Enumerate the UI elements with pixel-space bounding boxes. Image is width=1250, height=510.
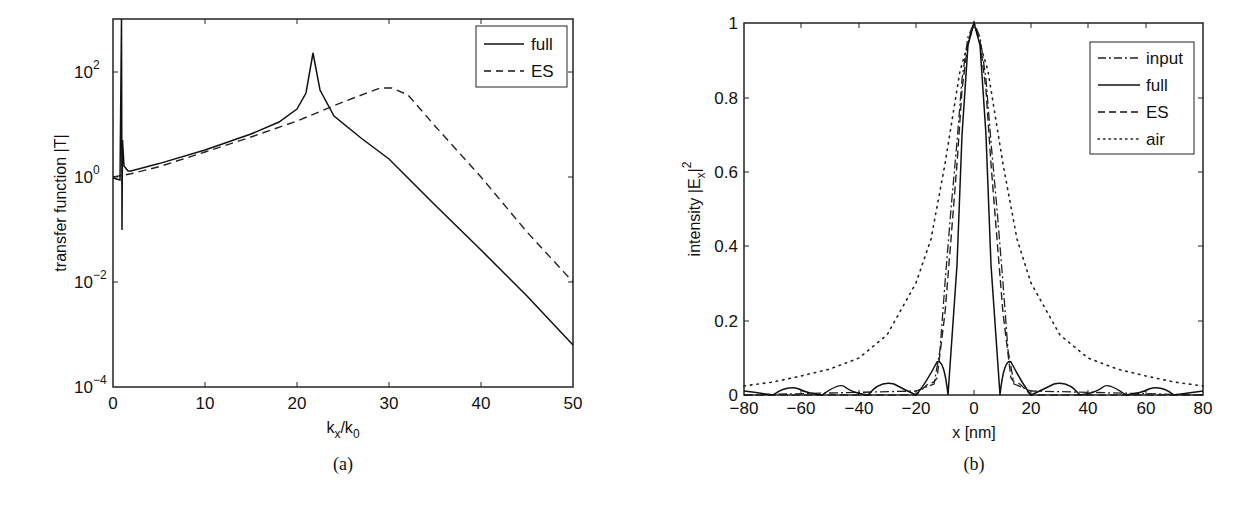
svg-text:10−4: 10−4 [74,373,107,397]
x-tick-label: 50 [564,394,583,413]
legend-label-air: air [1146,130,1165,149]
x-tick-label: 10 [196,394,215,413]
legend-label-input: input [1146,49,1183,68]
x-tick-label: 0 [108,394,117,413]
y-tick-label: 1 [729,14,738,33]
y-tick-label: 0.4 [714,237,738,256]
caption-b: (b) [964,454,985,475]
legend-label-es: ES [1146,103,1169,122]
x-tick-label: −60 [787,399,816,418]
caption-a: (a) [333,454,353,475]
svg-text:10−2: 10−2 [74,268,107,292]
x-axis-label-a: kx/k0 [326,419,359,441]
y-tick-labels-a: 10−4 10−2 100 102 [74,58,107,397]
legend-label-es: ES [531,62,554,81]
x-tick-label: 0 [969,399,978,418]
x-tick-label: 20 [1022,399,1041,418]
chart-a: 0 10 20 30 40 50 10−4 10−2 100 102 trans… [52,19,582,475]
y-axis-label-a: transfer function |T| [52,134,69,271]
x-tick-label: 40 [472,394,491,413]
chart-b: −80 −60 −40 −20 0 20 40 60 80 0 0.2 0.4 … [680,14,1212,475]
legend-b: input full ES air [1090,42,1194,154]
x-tick-label: 60 [1137,399,1156,418]
x-axis-label-b: x [nm] [952,424,996,441]
y-tick-label: 0.2 [714,312,738,331]
legend-a: full ES [476,26,567,87]
x-tick-label: −20 [902,399,931,418]
y-tick-label: 0 [729,386,738,405]
legend-label-full: full [1146,76,1168,95]
legend-label-full: full [531,35,553,54]
y-tick-label: 0.8 [714,89,738,108]
y-tick-label: 0.6 [714,163,738,182]
x-tick-label: 80 [1194,399,1213,418]
x-tick-label: 20 [288,394,307,413]
svg-text:102: 102 [74,58,100,82]
figure: 0 10 20 30 40 50 10−4 10−2 100 102 trans… [0,0,1250,510]
svg-text:100: 100 [74,163,100,187]
y-axis-label-b: intensity |Ex|2 [680,161,708,256]
x-tick-label: 40 [1079,399,1098,418]
x-tick-label: −40 [845,399,874,418]
x-tick-label: 30 [380,394,399,413]
